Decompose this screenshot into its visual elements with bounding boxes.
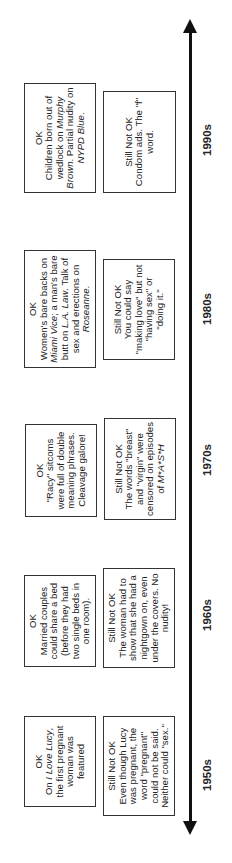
ok-box-1970s: OK "Racy" sitcoms were full of double me… (25, 424, 97, 517)
decade-label-1970s: 1970s (201, 444, 213, 476)
not-ok-box-1980s: Still Not OK You could say "making love"… (103, 259, 175, 360)
text-segment: Condom ads. The "f" word. (133, 98, 155, 186)
text-segment: "Racy" sitcoms were full of double meani… (44, 432, 87, 510)
show-title: Roseanne (80, 288, 91, 332)
text-segment: You could say "making love" but not "hav… (122, 265, 165, 355)
text-segment: Even though Lucy was pregnant, the word … (117, 724, 170, 808)
show-title: I Love Lucy (43, 731, 54, 780)
arrow-right-icon (183, 19, 197, 33)
arrow-left-icon (183, 821, 197, 835)
decade-label-1980s: 1980s (201, 293, 213, 325)
show-title: NYPD Blue (75, 115, 86, 164)
ok-box-1990s: OK Children born out of wedlock on Murph… (24, 83, 96, 193)
ok-text: "Racy" sitcoms were full of double meani… (45, 428, 87, 513)
text-segment: . (75, 112, 86, 115)
text-segment: On (43, 780, 54, 795)
timeline-axis (189, 31, 192, 823)
show-title: Miami Vice (48, 316, 59, 363)
not-ok-box-1970s: Still Not OK The words "breast" and "vir… (104, 418, 176, 520)
not-ok-box-1950s: Still Not OK Even though Lucy was pregna… (103, 716, 175, 816)
not-ok-text: Even though Lucy was pregnant, the word … (118, 720, 171, 812)
ok-text: Children born out of wedlock on Murphy B… (44, 87, 86, 189)
text-segment: . Partial nudity on (64, 87, 75, 161)
not-ok-text: You could say "making love" but not "hav… (123, 263, 165, 356)
text-segment: . (80, 286, 91, 289)
ok-box-1950s: OK On I Love Lucy, the first pregnant wo… (24, 716, 96, 807)
decade-label-1950s: 1950s (201, 759, 213, 791)
text-segment: Married couples could share a bed (befor… (38, 583, 91, 659)
text-segment: The woman had to show that she had a nig… (117, 573, 170, 662)
not-ok-text: The words "breast" and "virgin" were cen… (124, 422, 166, 516)
not-ok-text: Condom ads. The "f" word. (134, 95, 155, 189)
show-title: L.A. Law (59, 291, 70, 328)
decade-label-1960s: 1960s (201, 599, 213, 631)
ok-text: Married couples could share a bed (befor… (39, 579, 92, 663)
not-ok-text: The woman had to show that she had a nig… (118, 572, 171, 664)
show-title: M*A*S*H (155, 444, 166, 483)
not-ok-box-1990s: Still Not OK Condom ads. The "f" word. (103, 91, 176, 193)
ok-box-1960s: OK Married couples could share a bed (be… (24, 575, 96, 667)
ok-box-1980s: OK Women's bare backs on Miami Vice; a m… (24, 250, 96, 368)
timeline-diagram: OK On I Love Lucy, the first pregnant wo… (0, 0, 232, 863)
decade-label-1990s: 1990s (201, 124, 213, 156)
not-ok-box-1960s: Still Not OK The woman had to show that … (103, 568, 175, 668)
text-segment: Women's bare backs on (38, 258, 49, 360)
ok-text: Women's bare backs on Miami Vice; a man'… (39, 254, 92, 364)
ok-text: On I Love Lucy, the first pregnant woman… (44, 720, 86, 803)
